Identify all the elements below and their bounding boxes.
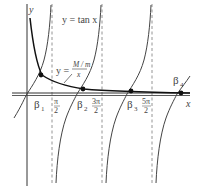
asymptote-label-1-num: π — [54, 97, 58, 106]
root-label-4-beta: β — [173, 74, 179, 86]
root-point-2 — [81, 87, 86, 92]
root-label-1: β 1 — [34, 98, 45, 113]
hyperbola-label: y = M / m x — [56, 60, 91, 79]
tan-curve-label: y = tan x — [62, 14, 97, 25]
hyperbola-label-denominator: x — [76, 70, 81, 79]
root-label-1-sub: 1 — [41, 105, 45, 113]
tan-branch-1 — [56, 5, 101, 183]
root-label-1-beta: β — [34, 98, 40, 110]
y-axis-label: y — [28, 4, 34, 15]
x-axis-label: x — [185, 98, 191, 109]
root-label-4: β 4 — [173, 74, 184, 89]
root-label-2-sub: 2 — [84, 105, 88, 113]
tan-intersection-diagram: y x y = tan x y = M / m x π 2 3π 2 5π 2 … — [0, 0, 197, 190]
hyperbola-curve — [30, 18, 190, 93]
hyperbola-label-prefix: y = — [56, 65, 70, 76]
root-label-4-sub: 4 — [180, 81, 184, 89]
axes — [12, 4, 190, 186]
asymptote-label-3-den: 2 — [144, 106, 148, 115]
tan-branch-2 — [106, 5, 151, 183]
asymptote-label-1-den: 2 — [54, 106, 58, 115]
asymptote-label-3: 5π 2 — [142, 97, 151, 115]
root-label-3-sub: 3 — [134, 105, 138, 113]
root-label-3: β 3 — [127, 98, 138, 113]
tan-branch-0 — [14, 5, 51, 118]
asymptote-label-2-num: 3π — [92, 97, 100, 106]
asymptote-label-2: 3π 2 — [92, 97, 101, 115]
root-point-3 — [129, 89, 134, 94]
asymptote-label-3-num: 5π — [142, 97, 150, 106]
asymptote-label-1: π 2 — [54, 97, 60, 115]
hyperbola-label-numerator: M / m — [72, 60, 91, 69]
asymptote-label-2-den: 2 — [94, 106, 98, 115]
root-label-2-beta: β — [77, 98, 83, 110]
asymptotes — [52, 4, 152, 185]
root-label-3-beta: β — [127, 98, 133, 110]
root-label-2: β 2 — [77, 98, 88, 113]
root-point-1 — [39, 73, 44, 78]
root-point-4 — [179, 91, 184, 96]
